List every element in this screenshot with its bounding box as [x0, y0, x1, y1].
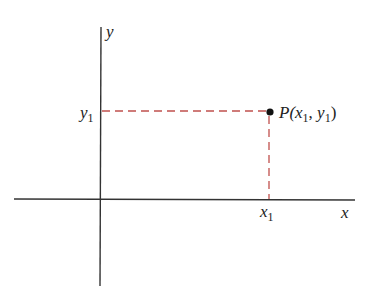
point-p-label: P(x1, y1)	[278, 103, 336, 125]
coordinate-diagram: y x y1 x1 P(x1, y1)	[0, 0, 374, 304]
y-axis	[100, 27, 101, 286]
x-axis-label: x	[340, 203, 349, 222]
y1-tick-label: y1	[78, 103, 94, 125]
x1-tick-label: x1	[259, 202, 274, 224]
point-p-marker	[266, 108, 273, 115]
x-axis	[14, 199, 355, 200]
y-axis-label: y	[104, 22, 114, 41]
